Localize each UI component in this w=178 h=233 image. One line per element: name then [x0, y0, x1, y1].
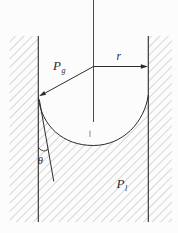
contact-angle-label: θ	[38, 155, 43, 166]
diagram-svg: Pg r θ Pl	[0, 0, 178, 233]
gas-pressure-arrowhead-icon	[39, 91, 46, 96]
gas-pressure-label-sub: g	[61, 66, 65, 75]
liquid-pressure-label-base: P	[116, 176, 125, 191]
gas-pressure-label: Pg	[52, 58, 65, 75]
right-wall-hatch-region	[148, 36, 172, 222]
gas-pressure-label-base: P	[52, 58, 61, 73]
left-wall-hatch-region	[10, 36, 39, 222]
radius-label: r	[117, 50, 122, 62]
radius-arrowhead-icon	[141, 64, 148, 68]
capillary-meniscus-diagram: Pg r θ Pl	[0, 0, 178, 233]
